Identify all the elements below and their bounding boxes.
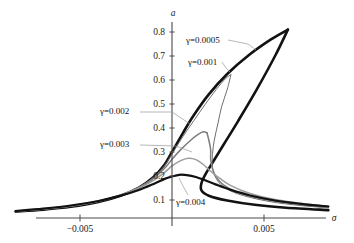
series-label-g002: γ=0.002 bbox=[100, 107, 129, 116]
leader-line bbox=[140, 112, 190, 124]
axes-layer bbox=[36, 22, 326, 226]
leader-line bbox=[179, 178, 188, 195]
series-label-g0005: γ=0.0005 bbox=[186, 36, 220, 45]
series-label-g003: γ=0.003 bbox=[100, 140, 129, 149]
y-tick-label: 0.5 bbox=[153, 99, 165, 109]
y-tick-label: 0.4 bbox=[153, 123, 165, 133]
y-tick-label: 0.7 bbox=[153, 51, 165, 61]
y-tick-label: 0.3 bbox=[153, 147, 165, 157]
leader-line bbox=[228, 40, 256, 50]
y-tick-label: 0.8 bbox=[153, 27, 165, 37]
x-tick-label: 0.005 bbox=[253, 224, 275, 234]
series-label-g004: γ=0.004 bbox=[176, 198, 205, 207]
x-tick-label: −0.005 bbox=[67, 224, 94, 234]
y-tick-label: 0.6 bbox=[153, 75, 165, 85]
y-axis-label: a bbox=[171, 8, 176, 18]
y-tick-label: 0.1 bbox=[153, 195, 165, 205]
x-axis-label: σ bbox=[332, 213, 337, 223]
y-tick-label: 0.2 bbox=[153, 171, 165, 181]
series-label-g001: γ=0.001 bbox=[188, 58, 217, 67]
leader-line bbox=[222, 62, 230, 72]
figure-canvas: 0.10.20.30.40.50.60.70.8−0.0050.005aσ γ=… bbox=[0, 0, 354, 243]
